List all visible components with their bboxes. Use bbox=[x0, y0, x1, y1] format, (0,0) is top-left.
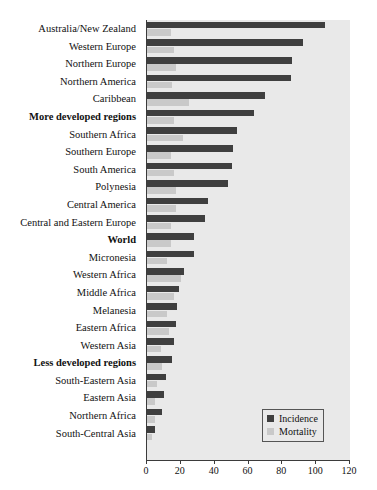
bar-incidence bbox=[147, 233, 194, 240]
category-label: Polynesia bbox=[0, 178, 142, 196]
legend-label-mortality: Mortality bbox=[279, 426, 317, 437]
category-label: Melanesia bbox=[0, 302, 142, 320]
bar-incidence bbox=[147, 57, 292, 64]
legend-swatch-mortality-icon bbox=[267, 428, 274, 435]
legend-item-incidence: Incidence bbox=[267, 412, 318, 425]
category-label: Australia/New Zealand bbox=[0, 20, 142, 38]
category-label: Micronesia bbox=[0, 249, 142, 267]
x-axis-tick-mark bbox=[349, 460, 350, 464]
category-label: Southern Africa bbox=[0, 126, 142, 144]
category-label-column: Australia/New ZealandWestern EuropeNorth… bbox=[0, 20, 142, 442]
bar-incidence bbox=[147, 75, 291, 82]
category-label: More developed regions bbox=[0, 108, 142, 126]
category-label: Caribbean bbox=[0, 90, 142, 108]
bar-group bbox=[147, 90, 350, 108]
bar-mortality bbox=[147, 135, 183, 142]
category-label: Northern America bbox=[0, 73, 142, 91]
legend-item-mortality: Mortality bbox=[267, 425, 318, 438]
bar-mortality bbox=[147, 64, 176, 71]
bar-group bbox=[147, 319, 350, 337]
bar-group bbox=[147, 108, 350, 126]
bar-mortality bbox=[147, 117, 174, 124]
bar-group bbox=[147, 354, 350, 372]
bar-incidence bbox=[147, 215, 205, 222]
category-label: Eastern Asia bbox=[0, 389, 142, 407]
bar-group bbox=[147, 55, 350, 73]
bar-incidence bbox=[147, 127, 237, 134]
bar-incidence bbox=[147, 356, 172, 363]
bar-mortality bbox=[147, 258, 167, 265]
x-axis-tick-mark bbox=[315, 460, 316, 464]
legend-label-incidence: Incidence bbox=[279, 413, 318, 424]
bar-mortality bbox=[147, 82, 172, 89]
bar-mortality bbox=[147, 328, 169, 335]
x-axis-tick-label: 100 bbox=[300, 465, 330, 476]
category-label: Eastern Africa bbox=[0, 319, 142, 337]
category-label: South America bbox=[0, 161, 142, 179]
bar-mortality bbox=[147, 205, 176, 212]
bar-incidence bbox=[147, 145, 233, 152]
bar-group bbox=[147, 214, 350, 232]
category-label: Western Africa bbox=[0, 266, 142, 284]
bar-group bbox=[147, 249, 350, 267]
bar-mortality bbox=[147, 416, 155, 423]
bar-group bbox=[147, 231, 350, 249]
bar-incidence bbox=[147, 286, 179, 293]
bar-incidence bbox=[147, 426, 155, 433]
x-axis-tick-mark bbox=[146, 460, 147, 464]
bar-incidence bbox=[147, 409, 162, 416]
bar-group bbox=[147, 389, 350, 407]
category-label: Central America bbox=[0, 196, 142, 214]
bar-incidence bbox=[147, 22, 325, 29]
bar-incidence bbox=[147, 338, 174, 345]
category-label: Central and Eastern Europe bbox=[0, 214, 142, 232]
bar-mortality bbox=[147, 293, 174, 300]
bar-incidence bbox=[147, 391, 164, 398]
bar-group bbox=[147, 337, 350, 355]
bar-incidence bbox=[147, 92, 265, 99]
x-axis-tick-label: 120 bbox=[334, 465, 364, 476]
bar-mortality bbox=[147, 363, 162, 370]
bar-group bbox=[147, 38, 350, 56]
bar-mortality bbox=[147, 240, 171, 247]
legend-swatch-incidence-icon bbox=[267, 415, 274, 422]
x-axis-tick-mark bbox=[214, 460, 215, 464]
bar-incidence bbox=[147, 198, 208, 205]
category-label: South-Eastern Asia bbox=[0, 372, 142, 390]
bar-group bbox=[147, 302, 350, 320]
plot-area bbox=[146, 20, 350, 460]
category-label: South-Central Asia bbox=[0, 425, 142, 443]
bar-mortality bbox=[147, 434, 152, 441]
category-label: Southern Europe bbox=[0, 143, 142, 161]
bar-group bbox=[147, 73, 350, 91]
bar-mortality bbox=[147, 170, 174, 177]
bar-mortality bbox=[147, 311, 167, 318]
category-label: Northern Europe bbox=[0, 55, 142, 73]
bar-incidence bbox=[147, 110, 254, 117]
category-label: Middle Africa bbox=[0, 284, 142, 302]
chart-legend: Incidence Mortality bbox=[262, 409, 324, 442]
bar-group bbox=[147, 20, 350, 38]
bar-group bbox=[147, 143, 350, 161]
bar-incidence bbox=[147, 303, 177, 310]
bar-incidence bbox=[147, 163, 232, 170]
bar-incidence bbox=[147, 39, 303, 46]
bar-incidence bbox=[147, 180, 228, 187]
bar-mortality bbox=[147, 47, 174, 54]
bar-mortality bbox=[147, 99, 189, 106]
bar-group bbox=[147, 126, 350, 144]
x-axis-tick-mark bbox=[281, 460, 282, 464]
bar-group bbox=[147, 196, 350, 214]
bar-mortality bbox=[147, 223, 171, 230]
category-label: World bbox=[0, 231, 142, 249]
x-axis-tick-label: 20 bbox=[165, 465, 195, 476]
x-axis-tick-mark bbox=[248, 460, 249, 464]
bar-mortality bbox=[147, 152, 171, 159]
x-axis-tick-label: 40 bbox=[199, 465, 229, 476]
category-label: Western Asia bbox=[0, 337, 142, 355]
bar-incidence bbox=[147, 251, 194, 258]
bar-incidence bbox=[147, 374, 166, 381]
breast-cancer-rates-bar-chart: Australia/New ZealandWestern EuropeNorth… bbox=[0, 0, 377, 490]
bar-mortality bbox=[147, 346, 161, 353]
bar-group bbox=[147, 178, 350, 196]
